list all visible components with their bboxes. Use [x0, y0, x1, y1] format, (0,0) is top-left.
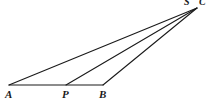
vertex-label-p: P	[62, 89, 69, 100]
segment-group	[9, 8, 197, 85]
vertex-label-b: B	[99, 89, 106, 100]
vertex-label-c: C	[199, 0, 206, 7]
segment-a-to-apex	[9, 8, 197, 85]
segment-p-to-apex	[66, 8, 197, 85]
vertex-label-a: A	[5, 89, 12, 100]
vertex-label-s: S	[184, 0, 190, 7]
geometry-figure: A P B S C	[0, 0, 211, 105]
segment-b-to-apex	[103, 8, 197, 85]
